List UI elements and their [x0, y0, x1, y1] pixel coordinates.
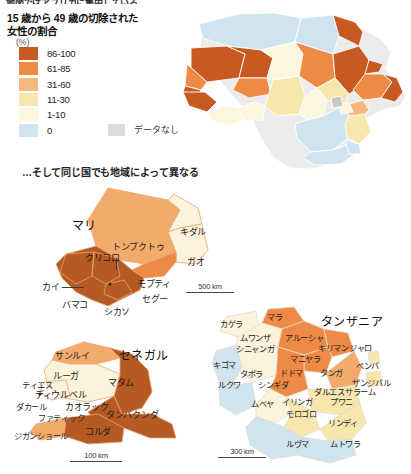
tz-label-pwani: プワニ	[330, 398, 353, 408]
region-liberia-ivory	[207, 106, 243, 126]
mali-label-koulikoro: クリコロ	[85, 253, 120, 263]
legend-list: 86-100 61-85 31-60 11-30 1-10 0	[19, 46, 75, 138]
tz-label-pemba: ペンバ	[356, 362, 379, 372]
legend-title: 15 歳から 49 歳の切除された女性の割合	[7, 12, 167, 37]
legend-item: 31-60	[19, 77, 75, 92]
mali-label-kayes: カイ	[42, 282, 59, 292]
legend-label: 0	[47, 125, 52, 136]
legend-swatch-no-data	[108, 124, 125, 136]
tz-label-lindi: リンディ	[328, 419, 358, 429]
region-no-data	[331, 96, 343, 108]
legend-label: 61-85	[47, 63, 70, 74]
mali-label-gao: ガオ	[187, 257, 204, 267]
senegal-label-matam: マタム	[108, 378, 134, 388]
tz-label-singida: シンギダ	[258, 381, 289, 391]
tz-label-mwanza: ムワンザ	[240, 334, 271, 344]
legend-label: 86-100	[47, 48, 75, 59]
senegal-label-kaolack: カオラック	[65, 402, 109, 412]
tz-label-morogoro: モロゴロ	[286, 410, 317, 420]
mali-scale-bar: 500 km	[186, 282, 234, 293]
legend-no-data: データなし	[108, 123, 179, 136]
tanzania-country-label: タンザニア	[321, 312, 383, 329]
legend-swatch-86-100	[19, 47, 38, 60]
tz-label-iringa: イリンガ	[282, 398, 313, 408]
mali-scale-line	[186, 292, 234, 293]
tz-label-ruvuma: ルヴマ	[286, 440, 309, 450]
mali-scale-label: 500 km	[186, 282, 234, 291]
legend-swatch-31-60	[19, 78, 38, 91]
senegal-label-louga: ルーガ	[53, 371, 79, 381]
legend-item: 0	[19, 122, 75, 137]
senegal-label-ziguinchor: ジガンショール	[14, 432, 68, 442]
tz-label-rukwa: ルクワ	[218, 381, 241, 391]
tz-label-kigoma: キゴマ	[213, 361, 236, 371]
mali-label-bamako: バマコ	[62, 300, 88, 310]
tz-label-tabora: タボラ	[240, 370, 263, 380]
tz-label-mbeya: ムベヤ	[251, 400, 274, 410]
tz-label-arusha: アルーシャ	[285, 334, 324, 344]
senegal-label-kolda: コルダ	[85, 427, 111, 437]
senegal-label-dakar: ダカール	[16, 403, 47, 413]
tanzania-scale-label: 300 km	[218, 447, 266, 456]
mali-label-sikasso: シカソ	[104, 307, 130, 317]
mali-country-label: マリ	[72, 216, 97, 233]
senegal-label-saint-louis: サンルイ	[55, 351, 90, 361]
tanzania-scale-bar: 300 km	[218, 447, 266, 458]
legend-swatch-1-10	[19, 108, 38, 121]
legend-swatch-0	[19, 124, 38, 137]
tz-label-mara: マラ	[267, 313, 282, 323]
tanzania-scale-line	[218, 457, 266, 458]
infographic-root: 地図ではアフリカに集中している 15 歳から 49 歳の切除された女性の割合 (…	[0, 0, 411, 474]
tz-label-dar-es-salaam: ダルエスサラーム	[314, 388, 376, 398]
legend-swatch-11-30	[19, 93, 38, 106]
tz-label-kilimanjaro: キリマンジャロ	[318, 344, 372, 354]
tz-label-manyara: マニヤラ	[290, 355, 321, 365]
legend-swatch-61-85	[19, 62, 38, 75]
senegal-label-fatick: ファティック	[38, 414, 84, 424]
legend-label-no-data: データなし	[134, 123, 179, 136]
mali-capital-dot	[108, 282, 111, 285]
mali-label-kidal: キダル	[180, 227, 206, 237]
region-guinea-sierraleone	[183, 92, 217, 112]
mali-label-segou: セグー	[142, 294, 168, 304]
senegal-scale-bar: 100 km	[70, 451, 122, 462]
tz-label-tanga: タンガ	[320, 369, 343, 379]
legend-label: 1-10	[47, 109, 65, 120]
legend-label: 11-30	[47, 94, 70, 105]
mali-leader-koulikoro	[116, 258, 117, 270]
africa-map	[183, 2, 411, 170]
tz-label-mtwara: ムトワラ	[330, 440, 361, 450]
mali-label-mopti: モプティ	[137, 279, 171, 289]
tz-label-dodoma: ドドマ	[280, 369, 303, 379]
cut-off-heading: 地図ではアフリカに集中している	[6, 0, 138, 4]
senegal-scale-label: 100 km	[70, 451, 122, 460]
legend-label: 31-60	[47, 79, 70, 90]
legend-item: 1-10	[19, 107, 75, 122]
legend-item: 11-30	[19, 92, 75, 107]
senegal-country-label: セネガル	[119, 346, 169, 363]
mali-leader-kayes	[62, 287, 84, 288]
tz-label-kagera: カゲラ	[220, 320, 243, 330]
senegal-label-tambacounda: タンバクンダ	[106, 410, 158, 420]
senegal-scale-line	[70, 461, 122, 462]
legend-item: 61-85	[19, 61, 75, 76]
senegal-label-diourbel: ディウルベル	[35, 390, 86, 400]
legend-item: 86-100	[19, 46, 75, 61]
tz-label-shinyanga: シニャンガ	[236, 345, 275, 355]
subheading: …そして同じ国でも地域によって異なる	[22, 164, 198, 179]
mali-label-tombouctou: トンブクトゥ	[112, 242, 164, 252]
